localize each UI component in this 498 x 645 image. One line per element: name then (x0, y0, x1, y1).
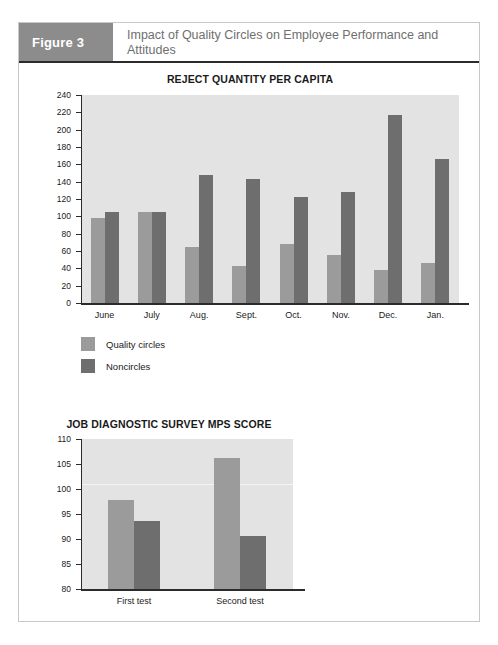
chart2-x-tick-label: Second test (216, 596, 264, 606)
chart2-y-tick (76, 464, 82, 465)
chart1-y-tick (76, 268, 82, 269)
chart1-y-tick-label: 100 (35, 211, 71, 221)
chart2-y-tick-label: 110 (35, 434, 71, 444)
chart1-y-tick-label: 240 (35, 90, 71, 100)
chart2-gridline (81, 484, 293, 485)
chart1-y-tick (76, 303, 82, 304)
chart2-y-tick-label: 100 (35, 484, 71, 494)
bar-chart1-quality-circles-5 (327, 255, 341, 303)
chart1-y-tick (76, 147, 82, 148)
chart2-plot-area (81, 439, 293, 589)
chart1-y-tick-label: 140 (35, 177, 71, 187)
chart1-y-tick-label: 220 (35, 107, 71, 117)
chart1-y-tick (76, 130, 82, 131)
chart1-x-tick-label: Dec. (379, 310, 398, 320)
chart2-title: JOB DIAGNOSTIC SURVEY MPS SCORE (19, 418, 319, 430)
chart2-y-tick (76, 514, 82, 515)
figure-header: Figure 3 Impact of Quality Circles on Em… (19, 23, 479, 63)
figure-frame: Figure 3 Impact of Quality Circles on Em… (18, 22, 480, 622)
chart1-plot-area (81, 95, 459, 303)
chart1-x-axis (81, 303, 469, 305)
chart2-y-tick-label: 85 (35, 559, 71, 569)
chart1-x-tick-label: Sept. (236, 310, 257, 320)
chart2-y-tick (76, 489, 82, 490)
bar-chart2-quality-circles-1 (214, 458, 240, 590)
chart2-x-tick-label: First test (117, 596, 152, 606)
chart2-y-tick (76, 539, 82, 540)
chart1-x-tick-label: Oct. (285, 310, 302, 320)
chart1-y-tick-label: 180 (35, 142, 71, 152)
chart1-x-tick-label: Nov. (332, 310, 350, 320)
chart1-y-tick-label: 200 (35, 125, 71, 135)
bar-chart1-noncircles-6 (388, 115, 402, 303)
bar-chart1-noncircles-2 (199, 175, 213, 303)
chart1-y-tick (76, 216, 82, 217)
chart1-y-tick (76, 112, 82, 113)
bar-chart1-quality-circles-0 (91, 218, 105, 303)
chart1-y-tick-label: 80 (35, 229, 71, 239)
chart2-y-tick (76, 439, 82, 440)
bar-chart2-quality-circles-0 (108, 500, 134, 589)
bar-chart2-noncircles-0 (134, 521, 160, 590)
chart2-y-tick-label: 90 (35, 534, 71, 544)
chart1-title: REJECT QUANTITY PER CAPITA (19, 73, 481, 85)
figure-number-badge: Figure 3 (19, 23, 113, 61)
figure-title: Impact of Quality Circles on Employee Pe… (113, 23, 479, 61)
bar-chart1-noncircles-0 (105, 212, 119, 303)
bar-chart1-noncircles-3 (246, 179, 260, 303)
chart2-y-tick (76, 564, 82, 565)
chart2-y-tick (76, 589, 82, 590)
bar-chart1-noncircles-4 (294, 197, 308, 303)
chart2-y-tick-label: 80 (35, 584, 71, 594)
legend-item: Noncircles (81, 355, 165, 377)
bar-chart1-quality-circles-4 (280, 244, 294, 303)
bar-chart1-quality-circles-6 (374, 270, 388, 303)
chart1-y-tick-label: 120 (35, 194, 71, 204)
chart2: 80859095100105110First testSecond test (19, 431, 319, 616)
legend-swatch-noncircles (81, 359, 95, 373)
chart2-x-axis (81, 589, 305, 591)
legend-item-label: Quality circles (106, 339, 165, 350)
bar-chart1-noncircles-7 (435, 159, 449, 303)
legend-item: Quality circles (81, 333, 165, 355)
bar-chart1-quality-circles-3 (232, 266, 246, 303)
chart1-y-tick (76, 234, 82, 235)
chart1-y-tick (76, 164, 82, 165)
chart1-x-tick-label: Aug. (190, 310, 209, 320)
chart1-y-tick-label: 40 (35, 263, 71, 273)
chart2-y-tick-label: 105 (35, 459, 71, 469)
bar-chart1-quality-circles-7 (421, 263, 435, 303)
chart1-y-tick (76, 199, 82, 200)
bar-chart1-noncircles-1 (152, 212, 166, 303)
chart1-y-tick-label: 60 (35, 246, 71, 256)
chart1-x-tick-label: June (95, 310, 115, 320)
chart1-x-tick-label: Jan. (427, 310, 444, 320)
bar-chart1-quality-circles-1 (138, 212, 152, 303)
chart1-y-tick (76, 286, 82, 287)
chart1-y-tick-label: 160 (35, 159, 71, 169)
legend-item-label: Noncircles (106, 361, 150, 372)
chart1-y-tick (76, 251, 82, 252)
chart2-y-tick-label: 95 (35, 509, 71, 519)
bar-chart1-quality-circles-2 (185, 247, 199, 303)
legend-swatch-quality-circles (81, 337, 95, 351)
chart1-legend: Quality circlesNoncircles (81, 333, 165, 377)
chart1-y-tick-label: 0 (35, 298, 71, 308)
chart1-y-tick (76, 95, 82, 96)
chart1: 020406080100120140160180200220240JuneJul… (19, 87, 481, 327)
chart1-y-tick (76, 182, 82, 183)
bar-chart2-noncircles-1 (240, 536, 266, 589)
chart1-y-tick-label: 20 (35, 281, 71, 291)
chart1-x-tick-label: July (144, 310, 160, 320)
bar-chart1-noncircles-5 (341, 192, 355, 303)
